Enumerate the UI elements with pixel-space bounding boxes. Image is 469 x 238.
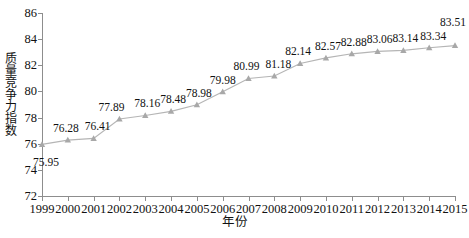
data-point-label: 83.51: [440, 16, 466, 28]
data-point-label: 81.18: [265, 59, 291, 71]
y-tick-label: 76: [25, 137, 38, 150]
x-tick-label: 2010: [313, 203, 338, 216]
x-tick-mark: [352, 197, 353, 201]
x-tick-mark: [455, 197, 456, 201]
data-point-label: 83.34: [420, 30, 446, 42]
x-tick-mark: [249, 197, 250, 201]
data-point-label: 82.14: [285, 46, 311, 58]
data-point-label: 82.88: [341, 36, 367, 48]
x-tick-label: 2006: [210, 203, 235, 216]
y-tick-label: 84: [25, 33, 38, 46]
x-tick-label: 2003: [133, 203, 158, 216]
chart-screenshot: 质量竞争力指数 7274767880828486 199920002001200…: [0, 0, 469, 238]
x-tick-label: 2008: [262, 203, 287, 216]
x-tick-label: 1999: [30, 203, 55, 216]
y-tick-label: 86: [25, 7, 38, 20]
x-axis-title: 年份: [0, 216, 469, 229]
data-point-marker: [219, 88, 225, 94]
x-tick-label: 2005: [184, 203, 209, 216]
y-axis-title: 质量竞争力指数: [0, 52, 15, 136]
data-point-label: 80.99: [234, 61, 260, 73]
x-tick-mark: [429, 197, 430, 201]
y-tick-label: 72: [25, 190, 38, 203]
data-point-label: 76.41: [85, 121, 111, 133]
plot-area: 75.9576.2876.4177.8978.1678.4878.9879.98…: [42, 13, 455, 196]
x-tick-label: 2000: [55, 203, 80, 216]
y-tick-label: 80: [25, 85, 38, 98]
x-tick-mark: [42, 197, 43, 201]
data-point-label: 75.95: [33, 157, 59, 169]
x-tick-mark: [94, 197, 95, 201]
x-tick-mark: [326, 197, 327, 201]
x-tick-mark: [68, 197, 69, 201]
x-tick-mark: [274, 197, 275, 201]
x-tick-label: 2001: [81, 203, 106, 216]
data-point-label: 83.14: [392, 33, 418, 45]
y-tick-label: 78: [25, 111, 38, 124]
x-tick-mark: [223, 197, 224, 201]
x-tick-label: 2012: [365, 203, 390, 216]
x-tick-label: 2011: [339, 203, 364, 216]
x-tick-mark: [145, 197, 146, 201]
x-tick-mark: [171, 197, 172, 201]
x-tick-label: 2009: [288, 203, 313, 216]
x-tick-mark: [119, 197, 120, 201]
data-point-label: 78.48: [160, 94, 186, 106]
x-tick-label: 2007: [236, 203, 261, 216]
data-point-label: 76.28: [53, 123, 79, 135]
data-point-marker: [194, 102, 200, 108]
x-tick-mark: [378, 197, 379, 201]
x-tick-mark: [197, 197, 198, 201]
data-point-label: 77.89: [99, 102, 125, 114]
y-tick-label: 82: [25, 59, 38, 72]
data-point-label: 78.98: [186, 87, 212, 99]
x-tick-label: 2014: [417, 203, 442, 216]
x-tick-label: 2004: [159, 203, 184, 216]
x-tick-label: 2013: [391, 203, 416, 216]
data-point-label: 83.06: [367, 34, 393, 46]
x-tick-label: 2002: [107, 203, 132, 216]
data-point-label: 82.57: [315, 40, 341, 52]
x-tick-mark: [403, 197, 404, 201]
data-point-label: 79.98: [210, 74, 236, 86]
x-tick-mark: [300, 197, 301, 201]
data-point-label: 78.16: [134, 98, 160, 110]
x-tick-label: 2015: [443, 203, 468, 216]
